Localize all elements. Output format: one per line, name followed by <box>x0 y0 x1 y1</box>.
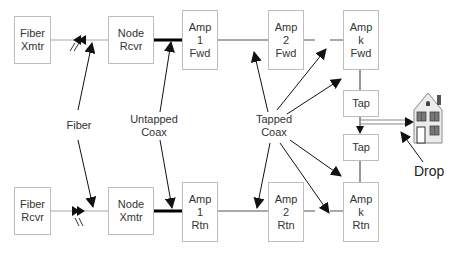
fiber-connector-bottom-icon <box>72 206 85 226</box>
amp2-rtn-box: Amp 2 Rtn <box>268 182 304 242</box>
amp2-fwd-label: Amp 2 Fwd <box>275 21 298 60</box>
ampk-rtn-label: Amp k Rtn <box>350 193 373 232</box>
tap-lower-box: Tap <box>343 134 379 161</box>
node-rcvr-box: Node Rcvr <box>108 16 154 64</box>
drop-cable <box>360 117 414 127</box>
fiber-xmtr-label: Fiber Xmtr <box>20 27 45 53</box>
amp1-rtn-label: Amp 1 Rtn <box>189 193 212 232</box>
amp2-fwd-box: Amp 2 Fwd <box>268 10 304 70</box>
fiber-rcvr-box: Fiber Rcvr <box>14 187 51 235</box>
untapped-coax-label: Untapped Coax <box>126 113 182 139</box>
ampk-fwd-box: Amp k Fwd <box>343 10 379 70</box>
amp1-fwd-box: Amp 1 Fwd <box>182 10 218 70</box>
drop-label: Drop <box>414 163 444 179</box>
ampk-rtn-box: Amp k Rtn <box>343 182 379 242</box>
ampk-fwd-label: Amp k Fwd <box>350 21 373 60</box>
tap-lower-label: Tap <box>352 141 370 154</box>
fiber-rcvr-label: Fiber Rcvr <box>20 198 45 224</box>
fiber-label: Fiber <box>58 119 100 132</box>
tap-upper-box: Tap <box>343 90 379 117</box>
node-xmtr-box: Node Xmtr <box>108 187 154 235</box>
amp1-rtn-box: Amp 1 Rtn <box>182 182 218 242</box>
fiber-connector-top-icon <box>70 35 86 51</box>
tap-upper-label: Tap <box>352 97 370 110</box>
tapped-coax-label: Tapped Coax <box>248 113 300 139</box>
fiber-xmtr-box: Fiber Xmtr <box>14 16 51 64</box>
amp2-rtn-label: Amp 2 Rtn <box>275 193 298 232</box>
house-icon <box>414 93 442 143</box>
node-xmtr-label: Node Xmtr <box>118 198 144 224</box>
node-rcvr-label: Node Rcvr <box>118 27 144 53</box>
amp1-fwd-label: Amp 1 Fwd <box>189 21 212 60</box>
